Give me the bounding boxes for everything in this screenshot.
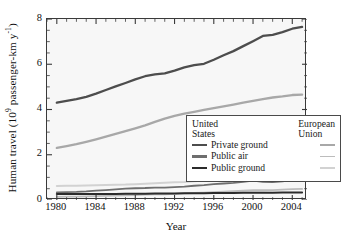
legend-swatch-us [192, 144, 207, 146]
legend-swatch-eu [320, 167, 335, 169]
y-tick-label: 4 [18, 103, 42, 113]
legend-row: Public air [192, 151, 335, 162]
x-tick-label: 1984 [75, 202, 115, 212]
y-tick-label: 6 [18, 58, 42, 68]
x-tick-label: 1996 [193, 202, 233, 212]
y-axis-label-end: ) [6, 23, 18, 27]
legend-header-us-line2: States [192, 129, 218, 139]
legend-label: Public air [211, 151, 318, 161]
y-tick-label: 8 [18, 13, 42, 23]
legend-header-eu: European Union [298, 119, 335, 139]
legend-label: Public ground [211, 163, 318, 173]
chart-legend: United States European Union Private gro… [186, 115, 341, 182]
legend-row: Private ground [192, 139, 335, 150]
x-tick-label: 1980 [36, 202, 76, 212]
x-tick-label: 2004 [271, 202, 311, 212]
y-axis-label-exponent-2: -1 [4, 27, 13, 33]
x-tick-label: 2000 [232, 202, 272, 212]
legend-row: Public ground [192, 162, 335, 173]
legend-swatch-us [192, 155, 207, 157]
legend-swatch-eu [320, 144, 335, 146]
y-tick-label: 2 [18, 148, 42, 158]
legend-label: Private ground [211, 140, 318, 150]
legend-header-us: United States [192, 119, 218, 139]
legend-header: United States European Union [192, 119, 335, 139]
x-tick-label: 1992 [154, 202, 194, 212]
legend-rows: Private groundPublic airPublic ground [192, 139, 335, 173]
x-axis-label: Year [45, 220, 307, 232]
chart-figure: Human travel (109 passenger-km y-1) 0246… [0, 0, 350, 243]
legend-swatch-us [192, 167, 207, 169]
y-axis-label-prefix: Human travel (10 [6, 112, 18, 193]
x-tick-label: 1988 [114, 202, 154, 212]
y-axis-label-mid: passenger-km y [6, 33, 18, 108]
legend-header-eu-line2: Union [298, 129, 335, 139]
legend-swatch-eu [320, 156, 335, 158]
